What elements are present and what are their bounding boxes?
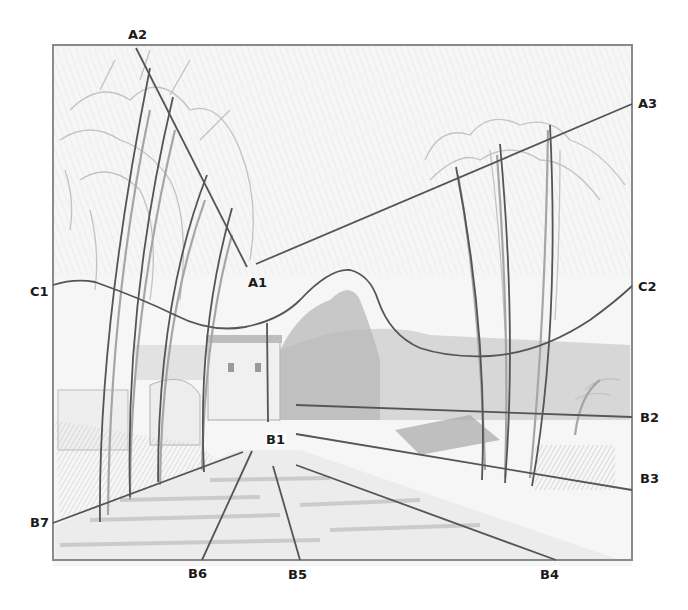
label-b6: B6: [188, 567, 207, 580]
label-b3: B3: [640, 472, 659, 485]
label-b2: B2: [640, 411, 659, 424]
label-a3: A3: [638, 97, 657, 110]
label-b7: B7: [30, 516, 49, 529]
label-b1: B1: [265, 433, 286, 446]
label-c2: C2: [638, 280, 657, 293]
perspective-diagram: A2 A3 A1 C1 C2 B1 B2 B3 B4 B5 B6 B7: [0, 0, 688, 610]
label-b4: B4: [540, 568, 559, 581]
drawing-canvas: [0, 0, 688, 610]
tree-line-5: [267, 323, 268, 422]
label-a2: A2: [128, 28, 147, 41]
label-b5: B5: [288, 568, 307, 581]
label-a1: A1: [248, 276, 267, 289]
label-c1: C1: [30, 285, 49, 298]
